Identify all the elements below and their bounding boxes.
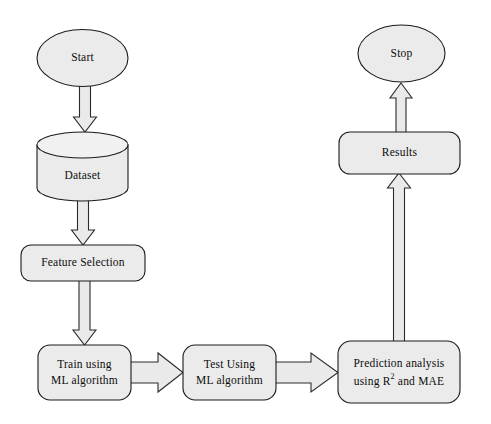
node-start-label: Start <box>71 51 94 63</box>
edge-feature-selection-to-train <box>73 279 96 345</box>
node-train-label-line2: ML algorithm <box>51 374 118 387</box>
node-prediction-label-line2-part2: and MAE <box>395 375 445 387</box>
node-stop-label: Stop <box>391 47 413 60</box>
node-feature-selection[interactable]: Feature Selection <box>21 245 145 281</box>
node-prediction-label-line1: Prediction analysis <box>354 357 445 370</box>
node-prediction-label-line2: using R2 and MAE <box>354 372 445 387</box>
node-prediction-label-line2-part1: using R <box>354 375 391 388</box>
flowchart-diagram: Start Dataset Feature Selection Train us… <box>0 0 491 424</box>
node-results[interactable]: Results <box>339 132 460 174</box>
node-test-label-line2: ML algorithm <box>196 374 263 387</box>
edge-prediction-to-results <box>388 173 411 342</box>
node-feature-selection-label: Feature Selection <box>41 256 125 268</box>
node-results-label: Results <box>382 146 418 158</box>
node-stop[interactable]: Stop <box>358 25 445 82</box>
edge-start-to-dataset <box>74 84 97 132</box>
node-start[interactable]: Start <box>37 30 128 87</box>
node-train-label-line1: Train using <box>57 358 112 371</box>
node-test[interactable]: Test Using ML algorithm <box>183 345 276 400</box>
edge-test-to-prediction <box>275 353 338 392</box>
node-test-label-line1: Test Using <box>204 358 255 371</box>
edge-train-to-test <box>130 353 183 392</box>
node-dataset[interactable]: Dataset <box>37 132 128 201</box>
edge-dataset-to-feature-selection <box>72 198 95 245</box>
node-train[interactable]: Train using ML algorithm <box>38 345 131 400</box>
node-prediction[interactable]: Prediction analysis using R2 and MAE <box>338 341 460 403</box>
edge-results-to-stop <box>390 83 412 133</box>
node-dataset-label: Dataset <box>65 169 101 181</box>
